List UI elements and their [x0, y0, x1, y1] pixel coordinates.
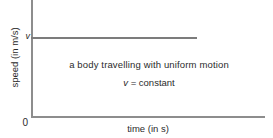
speed-time-graph-figure: v 0 speed (in m/s) time (in s) a body tr… [0, 0, 273, 138]
y-axis-title: speed (in m/s) [9, 8, 20, 108]
annotation-equation-text: v = constant [33, 76, 265, 89]
x-axis-title: time (in s) [31, 123, 265, 134]
origin-label-zero: 0 [16, 117, 28, 129]
constant-speed-data-line [31, 37, 197, 39]
y-axis-tick-label-v: v [18, 31, 30, 42]
x-axis-line [31, 116, 265, 118]
annotation-equation-rest: = constant [131, 77, 175, 88]
annotation-description-text: a body travelling with uniform motion [33, 58, 265, 71]
plot-annotation-block: a body travelling with uniform motion v … [33, 58, 265, 89]
